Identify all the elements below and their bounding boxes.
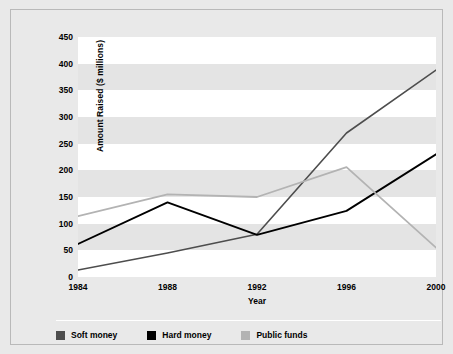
y-tick-label: 200 <box>43 166 73 175</box>
legend-item[interactable]: Public funds <box>241 331 307 340</box>
y-axis-title: Amount Raised ($ millions) <box>95 30 105 162</box>
y-tick-label: 400 <box>43 59 73 68</box>
y-tick-label: 0 <box>43 273 73 282</box>
x-tick-label: 2000 <box>427 283 446 292</box>
chart-legend: Soft moneyHard moneyPublic funds <box>56 331 307 340</box>
y-tick-label: 300 <box>43 113 73 122</box>
plot-area: 450400350300250200150100500 198419881992… <box>78 37 436 277</box>
y-tick-label: 450 <box>43 33 73 42</box>
legend-label: Public funds <box>256 331 307 340</box>
y-tick-label: 150 <box>43 193 73 202</box>
y-tick-label: 50 <box>43 246 73 255</box>
x-tick-label: 1996 <box>337 283 356 292</box>
legend-swatch-icon <box>147 331 156 340</box>
x-tick-label: 1984 <box>69 283 88 292</box>
x-axis-title: Year <box>78 296 436 306</box>
legend-label: Hard money <box>162 331 211 340</box>
legend-swatch-icon <box>56 331 65 340</box>
legend-label: Soft money <box>71 331 117 340</box>
series-lines <box>78 37 436 277</box>
chart-figure: 450400350300250200150100500 198419881992… <box>0 0 453 354</box>
legend-item[interactable]: Hard money <box>147 331 211 340</box>
legend-swatch-icon <box>241 331 250 340</box>
legend-item[interactable]: Soft money <box>56 331 117 340</box>
chart-frame: 450400350300250200150100500 198419881992… <box>10 9 443 345</box>
y-tick-label: 100 <box>43 219 73 228</box>
legend-divider <box>56 320 441 321</box>
y-tick-label: 350 <box>43 86 73 95</box>
x-tick-label: 1992 <box>248 283 267 292</box>
y-tick-label: 250 <box>43 139 73 148</box>
line-soft-money <box>78 70 436 270</box>
x-tick-label: 1988 <box>158 283 177 292</box>
